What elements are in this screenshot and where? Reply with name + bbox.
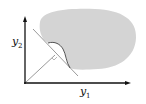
diagram-canvas: y 2 y 1 — [0, 0, 146, 104]
x-axis-label-subscript: 1 — [86, 92, 90, 100]
feasible-region-blob — [40, 9, 136, 70]
x-axis-arrowhead — [125, 81, 131, 85]
normal-vector-line — [25, 55, 55, 83]
y-axis-label-subscript: 2 — [18, 42, 22, 50]
y-axis-arrowhead — [23, 16, 27, 22]
